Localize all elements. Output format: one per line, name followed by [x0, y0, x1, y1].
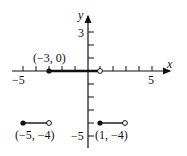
closed-point — [97, 120, 102, 125]
point-label-neg5-neg4: (−5, −4) — [15, 129, 55, 141]
segment-2 — [20, 120, 51, 125]
segment-3 — [97, 120, 127, 125]
closed-point — [46, 68, 51, 73]
open-point — [123, 121, 128, 126]
y-axis-label: y — [78, 9, 83, 21]
x-axis-label: x — [167, 58, 172, 70]
open-point — [98, 69, 103, 74]
segment-1 — [46, 68, 102, 73]
y-ticks — [88, 32, 94, 136]
closed-point — [20, 120, 25, 125]
y-tick-label-neg5: −5 — [71, 130, 84, 142]
x-tick-label-5: 5 — [148, 74, 154, 86]
x-tick-label-neg5: −5 — [12, 74, 25, 86]
point-label-neg3-0: (−3, 0) — [33, 52, 66, 64]
open-point — [47, 121, 52, 126]
y-tick-label-3: 3 — [78, 27, 84, 39]
point-label-1-neg4: (1, −4) — [95, 129, 128, 141]
